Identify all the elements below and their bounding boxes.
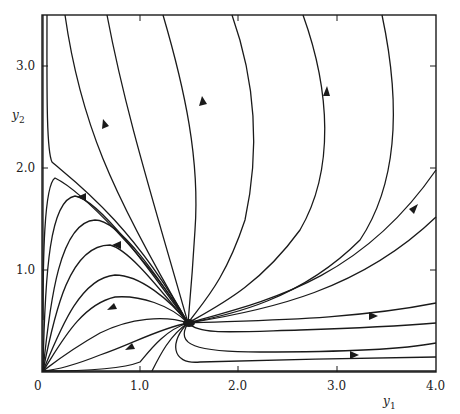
x-tick-label-0: 0 (34, 379, 42, 393)
svg-text:y: y (11, 108, 19, 122)
trajectory-left-2 (43, 196, 188, 370)
trajectories (42, 15, 436, 372)
y-tick-label-1: 1.0 (16, 263, 35, 277)
y-ticks (42, 66, 436, 270)
trajectory-left-3 (43, 220, 188, 371)
trajectory-top-7 (188, 15, 394, 323)
x-tick-label-4: 4.0 (426, 379, 445, 393)
direction-arrows (77, 86, 418, 359)
x-tick-label-3: 3.0 (327, 379, 346, 393)
arrow-up-icon (323, 86, 330, 96)
x-tick-label-2: 2.0 (228, 379, 247, 393)
arrow-up-left-icon (102, 119, 109, 129)
svg-text:1: 1 (390, 401, 396, 411)
x-tick-label-1: 1.0 (130, 379, 149, 393)
svg-text:y: y (382, 394, 390, 408)
trajectory-bottom-2 (152, 323, 188, 371)
trajectory-right-5 (184, 323, 436, 352)
trajectory-left-8 (43, 323, 188, 371)
critical-point-node (183, 319, 195, 327)
phase-portrait-chart: 0 1.0 2.0 3.0 4.0 1.0 2.0 3.0 y 1 y 2 (0, 0, 460, 414)
trajectory-right-4 (188, 323, 436, 332)
y-tick-label-3: 3.0 (16, 59, 35, 73)
trajectory-right-6 (176, 323, 436, 362)
arrow-down-left-icon (125, 343, 135, 350)
trajectory-top-4 (163, 15, 196, 323)
trajectory-bottom-1 (43, 323, 188, 371)
trajectory-top-6 (188, 15, 325, 323)
svg-text:2: 2 (19, 115, 25, 125)
arrow-up-right-icon (409, 204, 418, 214)
y-axis-label: y 2 (11, 108, 25, 125)
y-tick-label-2: 2.0 (16, 161, 35, 175)
trajectory-right-1 (188, 170, 436, 323)
x-axis-label: y 1 (382, 394, 396, 411)
trajectory-top-1 (47, 15, 188, 323)
plot-frame (42, 15, 436, 372)
trajectory-top-5 (188, 15, 254, 323)
arrow-down-left-icon (107, 303, 117, 310)
trajectory-right-2 (188, 217, 436, 323)
arrow-up-icon (199, 96, 207, 106)
